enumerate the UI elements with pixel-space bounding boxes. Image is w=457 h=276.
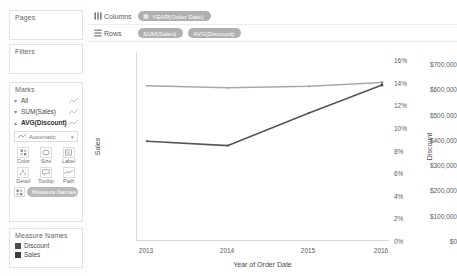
mark-type-value: Automatic xyxy=(29,134,71,140)
pill-label: AVG(Discount) xyxy=(193,30,234,37)
y-axis-title: Sales xyxy=(94,127,101,167)
rows-icon xyxy=(92,29,104,37)
marks-row-label: AVG(Discount) xyxy=(21,119,69,126)
color-button-label: Color xyxy=(17,159,30,165)
chart-view: $0 $100,000 $200,000 $300,000 $400,000 $… xyxy=(88,43,457,276)
columns-shelf[interactable]: Columns ▦ YEAR(Order Date) xyxy=(88,8,457,25)
y-axis-tick: $500,000 xyxy=(411,111,457,118)
x-axis-tick: 2014 xyxy=(220,247,234,254)
plot-area xyxy=(136,52,389,241)
legend-swatch xyxy=(15,252,21,258)
label-button-label: Label xyxy=(62,159,75,165)
calendar-icon: ▦ xyxy=(143,13,149,19)
pages-card-title: Pages xyxy=(10,11,82,23)
filters-card[interactable]: Filters xyxy=(9,44,83,74)
columns-icon xyxy=(92,12,104,20)
marks-row-avg-discount[interactable]: ▴ AVG(Discount) xyxy=(10,117,82,128)
tableau-worksheet: Pages Filters Marks ▾ All ▾ SUM(Sales) xyxy=(0,0,457,276)
y2-axis-tick: 12% xyxy=(394,102,420,109)
x-axis-tick: 2016 xyxy=(374,247,388,254)
y-axis-tick: $400,000 xyxy=(411,136,457,143)
label-button[interactable]: Label xyxy=(57,146,80,165)
pill-label: SUM(Sales) xyxy=(143,30,176,37)
y2-axis-tick: 14% xyxy=(394,79,420,86)
series-lines xyxy=(137,52,390,241)
marks-row-all[interactable]: ▾ All xyxy=(10,95,82,106)
y2-axis-title: Discount xyxy=(426,127,433,167)
marks-row-label: All xyxy=(21,97,69,104)
pill-year-order-date[interactable]: ▦ YEAR(Order Date) xyxy=(138,11,211,21)
series-line-discount xyxy=(147,85,382,146)
tooltip-icon xyxy=(40,167,52,178)
chevron-up-icon[interactable]: ▴ xyxy=(14,120,21,126)
y2-axis-tick: 8% xyxy=(394,147,420,154)
mark-type-dropdown[interactable]: Automatic ▾ xyxy=(14,131,78,142)
y-axis-tick: $600,000 xyxy=(411,86,457,93)
x-axis-tick: 2013 xyxy=(139,247,153,254)
line-chart-icon xyxy=(69,98,78,104)
y2-axis-tick: 6% xyxy=(394,170,420,177)
measure-names-legend-card[interactable]: Measure Names Discount Sales xyxy=(9,228,83,268)
line-chart-icon xyxy=(18,134,26,140)
pill-avg-discount[interactable]: AVG(Discount) xyxy=(188,28,241,38)
line-chart-icon xyxy=(69,120,78,126)
left-sidebar: Pages Filters Marks ▾ All ▾ SUM(Sales) xyxy=(0,0,88,276)
filters-card-title: Filters xyxy=(10,45,82,57)
x-axis-title: Year of Order Date xyxy=(136,261,389,268)
pill-label: YEAR(Order Date) xyxy=(152,13,204,20)
y2-axis-tick: 16% xyxy=(394,57,420,64)
legend-item-label: Sales xyxy=(24,251,40,258)
color-icon xyxy=(14,187,25,197)
pill-sum-sales[interactable]: SUM(Sales) xyxy=(138,28,183,38)
marks-card-title: Marks xyxy=(10,83,82,95)
detail-button-label: Detail xyxy=(16,179,30,185)
path-button[interactable]: Path xyxy=(57,166,80,185)
tooltip-button-label: Tooltip xyxy=(38,179,54,185)
legend-title: Measure Names xyxy=(10,229,82,241)
detail-icon xyxy=(17,167,29,178)
size-button-label: Size xyxy=(41,159,52,165)
legend-item-sales[interactable]: Sales xyxy=(10,250,82,259)
rows-shelf[interactable]: Rows SUM(Sales) AVG(Discount) xyxy=(88,25,457,42)
marks-row-label: SUM(Sales) xyxy=(21,108,69,115)
rows-shelf-label: Rows xyxy=(104,30,138,37)
chevron-down-icon[interactable]: ▾ xyxy=(14,109,21,115)
marks-encoded-field-row[interactable]: Measure Names xyxy=(10,184,82,197)
chevron-down-icon[interactable]: ▾ xyxy=(71,134,74,140)
y2-axis-tick: 10% xyxy=(394,125,420,132)
pages-card[interactable]: Pages xyxy=(9,10,83,40)
size-button[interactable]: Size xyxy=(35,146,58,165)
color-icon xyxy=(17,147,29,158)
marks-encoding-buttons: Color Size Label xyxy=(10,144,82,184)
y-axis-tick: $300,000 xyxy=(411,162,457,169)
marks-row-sum-sales[interactable]: ▾ SUM(Sales) xyxy=(10,106,82,117)
columns-shelf-label: Columns xyxy=(104,13,138,20)
path-icon xyxy=(63,167,75,178)
color-button[interactable]: Color xyxy=(12,146,35,165)
legend-item-discount[interactable]: Discount xyxy=(10,241,82,250)
label-icon xyxy=(63,147,75,158)
marks-card[interactable]: Marks ▾ All ▾ SUM(Sales) ▴ AVG(Discount) xyxy=(9,82,83,222)
x-axis-tick: 2015 xyxy=(301,247,315,254)
detail-button[interactable]: Detail xyxy=(12,166,35,185)
line-chart-icon xyxy=(69,109,78,115)
path-button-label: Path xyxy=(63,179,74,185)
y2-axis-tick: 0% xyxy=(394,238,420,245)
y2-axis-tick: 2% xyxy=(394,215,420,222)
size-icon xyxy=(40,147,52,158)
series-markers-discount xyxy=(146,84,384,147)
legend-swatch xyxy=(15,243,21,249)
measure-names-pill[interactable]: Measure Names xyxy=(27,187,78,197)
tooltip-button[interactable]: Tooltip xyxy=(35,166,58,185)
legend-item-label: Discount xyxy=(24,242,49,249)
y2-axis-tick: 4% xyxy=(394,192,420,199)
chevron-down-icon[interactable]: ▾ xyxy=(14,98,21,104)
series-line-sales xyxy=(147,83,382,88)
